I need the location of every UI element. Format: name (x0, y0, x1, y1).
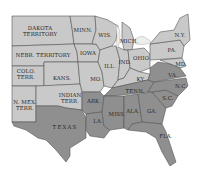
label-illinois: ILL. (104, 63, 116, 69)
label-nebraska: NEBR. TERRITORY (16, 52, 71, 58)
label-south-carolina: S.C. (162, 95, 173, 101)
label-new-york: N.Y. (174, 32, 185, 38)
label-kentucky: KY. (137, 76, 146, 82)
label-kansas: KANS. (53, 75, 71, 81)
label-michigan: MICH. (120, 38, 139, 44)
label-virginia: VA. (167, 72, 178, 78)
label-texas: TEXAS (53, 124, 78, 130)
label-florida: FLA. (159, 133, 173, 139)
region-michigan (122, 22, 134, 50)
label-north-carolina: N.C. (175, 83, 187, 89)
great-lakes (116, 26, 152, 48)
label-indiana: IND. (118, 59, 131, 65)
region-new-york (150, 14, 190, 46)
label-wisconsin: WIS. (98, 32, 111, 38)
label-maryland: MD. (175, 61, 187, 67)
label-arkansas: ARK. (86, 98, 101, 104)
label-louisiana: LA. (93, 118, 103, 124)
label-missouri: MO. (90, 76, 102, 82)
region-florida (128, 122, 176, 166)
label-pennsylvania: PA. (167, 47, 176, 53)
label-alabama: ALA. (125, 108, 140, 114)
label-georgia: GA. (147, 108, 157, 114)
label-tennessee: TENN. (126, 88, 145, 94)
label-new-mexico: N. MEX.TERR. (13, 99, 37, 111)
label-ohio: OHIO (133, 55, 150, 61)
civil-war-us-map: DAKOTATERRITORY MINN. NEBR. TERRITORY IO… (0, 0, 202, 176)
label-iowa: IOWA (80, 50, 96, 56)
label-mississippi: MISS. (109, 111, 126, 117)
label-colorado: COLO.TERR. (17, 68, 36, 80)
region-kansas (44, 62, 80, 86)
label-minnesota: MINN. (74, 27, 93, 33)
label-indian-territory: INDIANTERR. (59, 92, 82, 104)
